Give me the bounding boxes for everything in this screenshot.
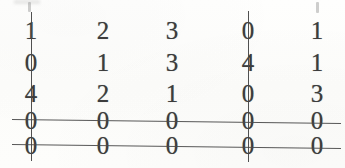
matrix-cell: 2 <box>97 81 110 106</box>
matrix-cell: 1 <box>311 50 324 75</box>
matrix-cell: 1 <box>311 18 324 43</box>
scan-smudge-top-left-wide <box>14 0 40 4</box>
matrix-cell: 3 <box>166 50 179 75</box>
matrix-cell: 0 <box>311 133 324 158</box>
matrix-grid: 1 2 3 0 1 0 1 3 4 1 4 2 1 0 3 0 0 0 0 0 … <box>0 0 345 168</box>
scan-smudge-top-right <box>316 2 319 13</box>
matrix-cell: 3 <box>311 81 324 106</box>
column-1-strike-line <box>31 12 32 161</box>
matrix-cell: 0 <box>311 108 324 133</box>
scanned-page: 1 2 3 0 1 0 1 3 4 1 4 2 1 0 3 0 0 0 0 0 … <box>0 0 345 168</box>
matrix-cell: 1 <box>166 81 179 106</box>
column-4-strike-line <box>248 11 249 162</box>
matrix-cell: 1 <box>97 50 110 75</box>
matrix-cell: 2 <box>97 18 110 43</box>
matrix-cell: 3 <box>166 18 179 43</box>
